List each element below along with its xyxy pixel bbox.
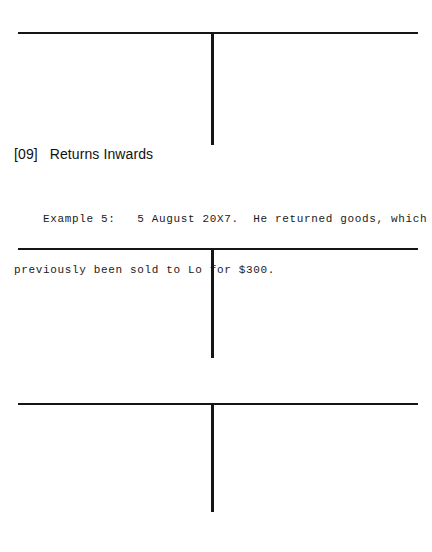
example-line-2: previously been sold to Lo for $300.: [14, 262, 422, 279]
example-line-1: Example 5: 5 August 20X7. He returned go…: [14, 211, 422, 228]
t-account-header-rule: [18, 32, 418, 34]
document-page: [09] Returns Inwards Example 5: 5 August…: [0, 0, 432, 552]
t-account-divider: [211, 32, 214, 145]
example-paragraph: Example 5: 5 August 20X7. He returned go…: [14, 177, 422, 313]
t-account-header-rule: [18, 403, 418, 405]
t-account-header-rule: [18, 248, 418, 250]
section-heading: [09] Returns Inwards: [14, 146, 153, 163]
t-account-divider: [211, 248, 214, 358]
t-account-divider: [211, 403, 214, 512]
